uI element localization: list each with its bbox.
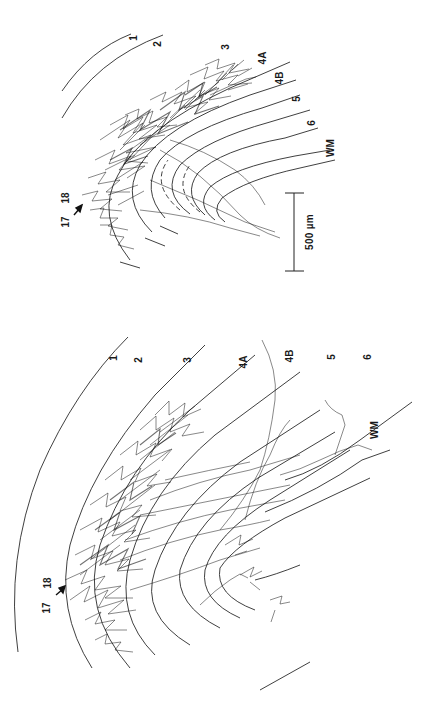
bottom-area-label-17: 17 xyxy=(42,602,52,613)
top-layer-label-wm: WM xyxy=(326,139,336,157)
bottom-area-label-18: 18 xyxy=(43,577,53,588)
top-area-label-17: 17 xyxy=(61,216,71,227)
bottom-layer-label-1: 1 xyxy=(109,355,119,361)
top-layer-label-3: 3 xyxy=(221,44,231,50)
top-layer-label-5: 5 xyxy=(292,96,302,102)
top-layer-label-1: 1 xyxy=(129,35,139,41)
top-layer-label-4a: 4A xyxy=(258,52,268,65)
bottom-layer-label-4b: 4B xyxy=(285,350,295,363)
bottom-layer-label-3: 3 xyxy=(183,357,193,363)
arrow-icon xyxy=(74,205,82,215)
bottom-layer-label-2: 2 xyxy=(134,357,144,363)
top-area-label-18: 18 xyxy=(61,192,71,203)
top-layer-label-2: 2 xyxy=(153,41,163,47)
arrow-icon xyxy=(56,586,65,595)
top-layer-label-4b: 4B xyxy=(275,72,285,85)
bottom-layer-label-6: 6 xyxy=(363,354,373,360)
scale-bar-label: 500 µm xyxy=(305,214,315,250)
bottom-layer-label-5: 5 xyxy=(327,354,337,360)
bottom-layer-label-wm: WM xyxy=(370,421,380,439)
bottom-layer-label-4a: 4A xyxy=(239,356,249,369)
figure: 1 2 3 4A 4B 5 6 WM 17 18 1 2 3 4A 4B 5 6… xyxy=(0,0,446,707)
area-border-arrows xyxy=(0,0,446,707)
top-layer-label-6: 6 xyxy=(307,120,317,126)
